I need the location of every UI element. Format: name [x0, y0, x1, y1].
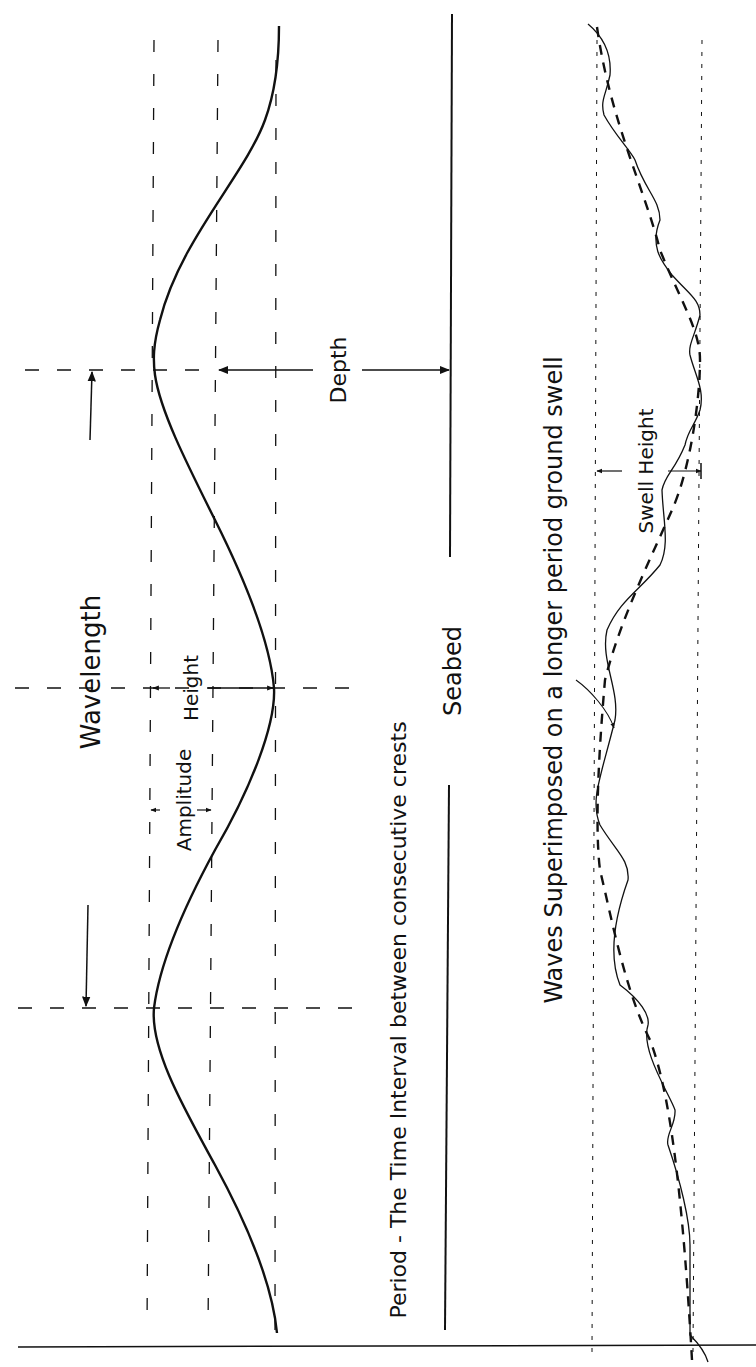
- seabed-line-upper: [450, 14, 452, 557]
- swell-height-label: Swell Height: [634, 408, 658, 533]
- caption-leader-arrow: [576, 680, 614, 728]
- crest-reference-line: [147, 40, 154, 1332]
- wavelength-arrow-lower: [86, 905, 88, 1006]
- ground-swell-curve: [597, 27, 700, 1360]
- height-label: Height: [179, 655, 203, 721]
- wave-anatomy-panel: Wavelength Depth Height Amplitude Period…: [15, 14, 467, 1333]
- swell-panel: Swell Height Waves Superimposed on a lon…: [540, 24, 708, 1362]
- period-caption: Period - The Time Interval between conse…: [386, 721, 411, 1318]
- swell-caption: Waves Superimposed on a longer period gr…: [540, 356, 568, 1003]
- superimposed-waves-curve: [588, 24, 708, 1362]
- wave-diagram: Wavelength Depth Height Amplitude Period…: [0, 0, 756, 1367]
- amplitude-label: Amplitude: [172, 749, 196, 852]
- wavelength-arrow-upper: [90, 372, 92, 440]
- swell-lower-bound-line: [693, 40, 702, 1352]
- depth-label: Depth: [326, 336, 351, 403]
- bottom-border-line: [18, 1345, 756, 1347]
- mean-level-reference-line: [208, 40, 218, 1332]
- wavelength-label: Wavelength: [76, 595, 106, 749]
- seabed-line-lower: [445, 785, 449, 1330]
- wave-profile-curve: [154, 26, 279, 1333]
- swell-upper-bound-line: [592, 40, 597, 1352]
- seabed-label: Seabed: [439, 626, 467, 716]
